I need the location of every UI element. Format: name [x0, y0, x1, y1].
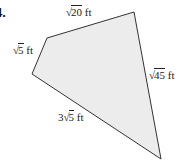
side-label-top: √20 ft: [66, 7, 92, 18]
radicand: 5: [69, 110, 75, 123]
unit: ft: [85, 6, 92, 18]
unit: ft: [168, 69, 175, 81]
side-label-bottom: 3√5 ft: [58, 112, 84, 123]
unit: ft: [26, 44, 33, 56]
quadrilateral-shape: [32, 12, 161, 159]
radical-expression: √5: [13, 45, 24, 56]
radical-expression: √45: [149, 70, 165, 81]
side-label-left: √5 ft: [13, 45, 33, 56]
radicand: 20: [71, 5, 82, 18]
radicand: 45: [154, 68, 165, 81]
radical-expression: √5: [64, 112, 75, 123]
quadrilateral-figure: [0, 0, 182, 167]
radical-expression: √20: [66, 7, 82, 18]
unit: ft: [77, 111, 84, 123]
side-label-right: √45 ft: [149, 70, 175, 81]
radicand: 5: [18, 43, 24, 56]
